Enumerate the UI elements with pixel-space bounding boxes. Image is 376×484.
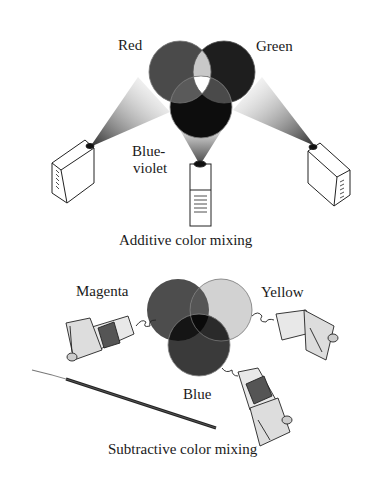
yellow-label: Yellow [261, 284, 304, 300]
paint-tube-blue [222, 368, 292, 446]
green-label: Green [256, 38, 293, 54]
blue-violet-label-line1: Blue- [132, 143, 165, 159]
projector-center [190, 161, 211, 226]
projector-left [52, 140, 94, 203]
magenta-label: Magenta [76, 283, 128, 299]
paint-tube-magenta [66, 316, 156, 361]
projector-right [308, 143, 350, 206]
paint-tube-yellow [252, 310, 338, 360]
red-label: Red [118, 37, 142, 53]
additive-caption: Additive color mixing [119, 232, 252, 249]
subtractive-caption: Subtractive color mixing [108, 441, 257, 458]
blue-violet-label-line2: violet [133, 160, 167, 176]
subtractive-venn-diagram [147, 279, 252, 376]
blue-label: Blue [183, 386, 211, 402]
additive-venn-diagram [149, 41, 255, 138]
